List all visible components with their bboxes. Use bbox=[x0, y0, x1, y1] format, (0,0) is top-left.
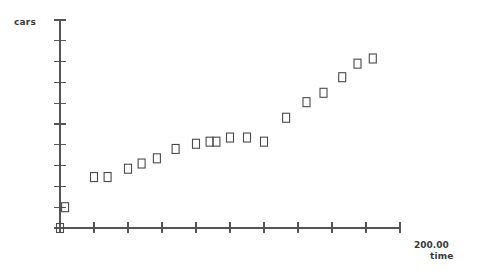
scatter-plot: cars 200.00 time bbox=[0, 0, 478, 271]
data-point-marker bbox=[369, 54, 376, 63]
data-point-marker bbox=[244, 133, 251, 142]
data-point-marker bbox=[206, 137, 213, 146]
data-point-marker bbox=[125, 164, 132, 173]
data-points-group bbox=[57, 54, 377, 233]
data-point-marker bbox=[339, 73, 346, 82]
data-point-marker bbox=[320, 88, 327, 97]
y-axis-title: cars bbox=[14, 17, 36, 27]
data-point-marker bbox=[354, 59, 361, 68]
data-point-marker bbox=[153, 154, 160, 163]
data-point-marker bbox=[303, 98, 310, 107]
data-point-marker bbox=[91, 173, 98, 182]
x-axis-title: time bbox=[430, 251, 454, 261]
axes-group bbox=[54, 20, 400, 233]
data-point-marker bbox=[213, 137, 220, 146]
data-point-marker bbox=[104, 173, 111, 182]
data-point-marker bbox=[261, 137, 268, 146]
data-point-marker bbox=[227, 133, 234, 142]
data-point-marker bbox=[193, 139, 200, 148]
data-point-marker bbox=[283, 113, 290, 122]
plot-canvas bbox=[0, 0, 478, 271]
data-point-marker bbox=[172, 144, 179, 153]
data-point-marker bbox=[138, 159, 145, 168]
x-axis-max-tick-label: 200.00 bbox=[414, 240, 449, 250]
